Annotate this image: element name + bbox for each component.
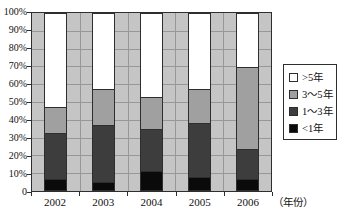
bar-segment-2002-<1年 <box>45 179 66 190</box>
vertical-gridline <box>223 13 224 191</box>
y-axis-tick-label: 30% <box>0 132 27 144</box>
bar-2002 <box>44 13 67 191</box>
y-axis-tick-mark <box>27 174 32 175</box>
bar-segment-2004->5年 <box>141 14 162 97</box>
legend-item-label: 1～3年 <box>302 106 333 117</box>
legend-item: <1年 <box>289 120 334 137</box>
y-axis-tick-label: 100% <box>0 6 27 18</box>
bar-segment-2006-3～5年 <box>237 67 258 149</box>
y-axis-tick-mark <box>27 66 32 67</box>
y-axis-tick-label: 80% <box>0 42 27 54</box>
y-axis-tick-label: 70% <box>0 60 27 72</box>
vertical-gridline <box>128 13 129 191</box>
vertical-gridline <box>175 13 176 191</box>
x-axis-category-label: 2002 <box>31 195 79 209</box>
vertical-gridline <box>80 13 81 191</box>
bar-2004 <box>140 13 163 191</box>
legend: >5年3～5年1～3年<1年 <box>283 64 337 140</box>
bar-segment-2006-1～3年 <box>237 149 258 180</box>
bar-segment-2002-3～5年 <box>45 107 66 133</box>
bar-segment-2003-1～3年 <box>93 125 114 182</box>
y-axis-tick-label: 20% <box>0 150 27 162</box>
x-axis-unit-label: （年份） <box>273 196 313 209</box>
x-axis-category-label: 2003 <box>79 195 127 209</box>
legend-item-label: >5年 <box>302 72 323 83</box>
x-axis-category-label: 2006 <box>224 195 272 209</box>
legend-item-label: 3～5年 <box>302 89 333 100</box>
bar-segment-2003-<1年 <box>93 182 114 190</box>
y-axis-tick-label: 40% <box>0 114 27 126</box>
y-axis-tick-mark <box>27 138 32 139</box>
bar-segment-2005-3～5年 <box>189 89 210 123</box>
y-axis-tick-mark <box>27 102 32 103</box>
plot-area <box>31 12 272 192</box>
bar-2003 <box>92 13 115 191</box>
y-axis-tick-mark <box>27 30 32 31</box>
bar-segment-2005->5年 <box>189 14 210 89</box>
bar-segment-2002->5年 <box>45 14 66 107</box>
bar-segment-2004-3～5年 <box>141 97 162 130</box>
x-axis-category-label: 2004 <box>127 195 175 209</box>
bar-segment-2003->5年 <box>93 14 114 89</box>
bar-segment-2006->5年 <box>237 14 258 67</box>
bar-2005 <box>188 13 211 191</box>
y-axis-tick-mark <box>27 48 32 49</box>
y-axis-tick-mark <box>27 84 32 85</box>
bar-segment-2003-3～5年 <box>93 89 114 125</box>
legend-swatch-icon <box>289 73 298 82</box>
y-axis-tick-mark <box>27 12 32 13</box>
legend-swatch-icon <box>289 124 298 133</box>
y-axis-tick-mark <box>27 120 32 121</box>
legend-item: >5年 <box>289 69 334 86</box>
legend-swatch-icon <box>289 90 298 99</box>
y-axis-tick-label: 60% <box>0 78 27 90</box>
y-axis-tick-mark <box>27 156 32 157</box>
bar-segment-2006-<1年 <box>237 179 258 190</box>
y-axis-tick-label: 50% <box>0 96 27 108</box>
legend-swatch-icon <box>289 107 298 116</box>
legend-item-label: <1年 <box>302 123 323 134</box>
legend-item: 1～3年 <box>289 103 334 120</box>
bar-segment-2005-1～3年 <box>189 123 210 177</box>
bar-segment-2004-1～3年 <box>141 129 162 170</box>
bar-segment-2002-1～3年 <box>45 133 66 180</box>
x-axis-category-label: 2005 <box>176 195 224 209</box>
stacked-bar-chart-figure: 100%90%80%70%60%50%40%30%20%10%0 2002200… <box>0 0 339 219</box>
y-axis-tick-label: 0 <box>0 186 27 198</box>
legend-item: 3～5年 <box>289 86 334 103</box>
y-axis-tick-label: 90% <box>0 24 27 36</box>
bar-segment-2005-<1年 <box>189 177 210 190</box>
bar-2006 <box>236 13 259 191</box>
y-axis-tick-label: 10% <box>0 168 27 180</box>
bar-segment-2004-<1年 <box>141 171 162 190</box>
